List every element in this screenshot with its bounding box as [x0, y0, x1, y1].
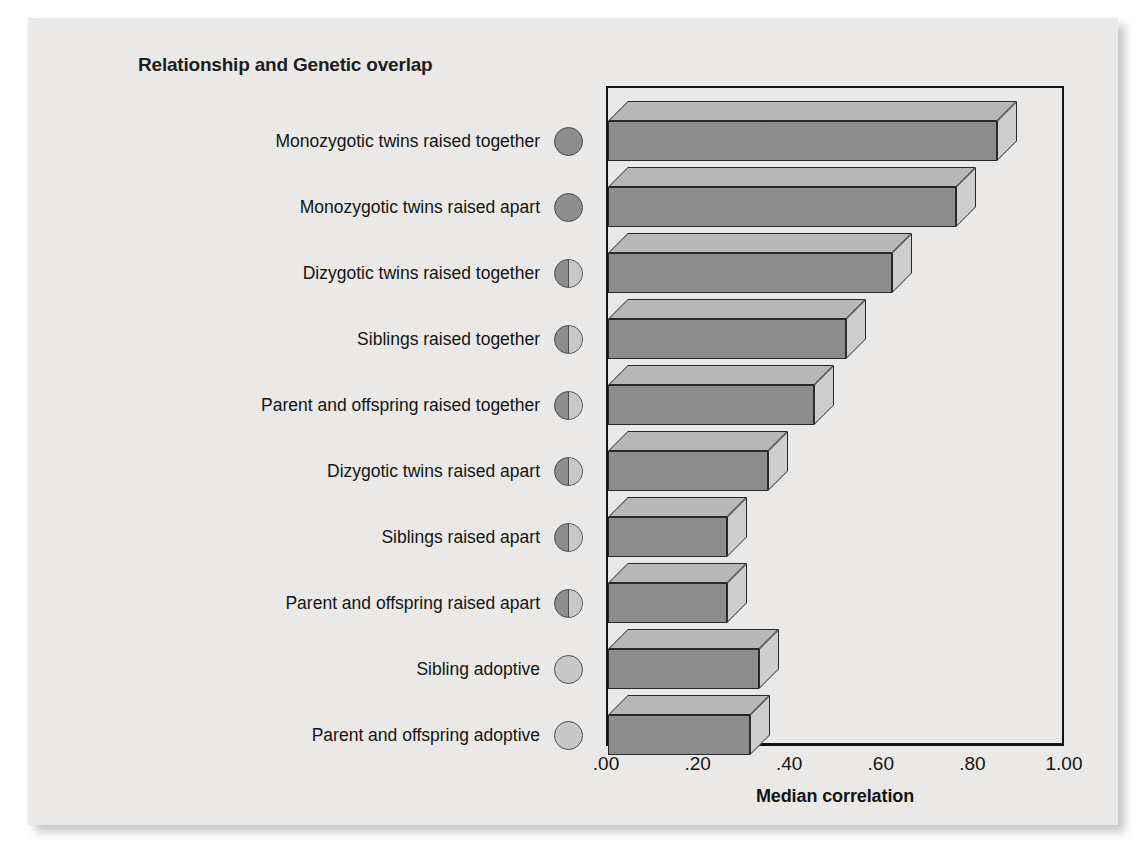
- bar-front-face: [608, 583, 727, 623]
- figure-card: Relationship and Genetic overlap Monozyg…: [28, 18, 1118, 825]
- x-axis-tick-labels: .00.20.40.60.801.00: [606, 753, 1064, 779]
- category-label: Dizygotic twins raised apart: [88, 461, 554, 482]
- bar-top-face: [608, 299, 866, 319]
- category-row: Siblings raised apart: [88, 504, 583, 570]
- bar-front-face: [608, 385, 814, 425]
- bar-front-face: [608, 715, 750, 755]
- bar-front-face: [608, 649, 759, 689]
- category-label: Parent and offspring raised together: [88, 395, 554, 416]
- category-row: Monozygotic twins raised together: [88, 108, 583, 174]
- category-label: Sibling adoptive: [88, 659, 554, 680]
- category-row: Parent and offspring adoptive: [88, 702, 583, 768]
- genetic-overlap-full-circle-icon: [554, 127, 583, 156]
- x-axis-tick-label: .20: [684, 753, 710, 775]
- category-label: Dizygotic twins raised together: [88, 263, 554, 284]
- bar-top-face: [608, 101, 1017, 121]
- category-label: Monozygotic twins raised together: [88, 131, 554, 152]
- genetic-overlap-empty-circle-icon: [554, 721, 583, 750]
- genetic-overlap-half-circle-icon: [554, 523, 583, 552]
- category-label: Parent and offspring raised apart: [88, 593, 554, 614]
- bar: [608, 319, 846, 359]
- x-axis-tick-label: .60: [868, 753, 894, 775]
- bar-front-face: [608, 451, 768, 491]
- legend-title: Relationship and Genetic overlap: [138, 54, 433, 76]
- bar: [608, 583, 727, 623]
- x-axis-tick-label: 1.00: [1046, 753, 1083, 775]
- circle-light-half: [568, 458, 583, 485]
- bar-top-face: [608, 563, 747, 583]
- category-row: Parent and offspring raised apart: [88, 570, 583, 636]
- bar: [608, 253, 892, 293]
- category-label: Siblings raised together: [88, 329, 554, 350]
- genetic-overlap-empty-circle-icon: [554, 655, 583, 684]
- plot-area: [606, 86, 1064, 746]
- x-axis-tick-label: .80: [959, 753, 985, 775]
- plot-frame-top: [606, 86, 1064, 88]
- genetic-overlap-half-circle-icon: [554, 391, 583, 420]
- genetic-overlap-half-circle-icon: [554, 259, 583, 288]
- genetic-overlap-full-circle-icon: [554, 193, 583, 222]
- category-label-column: Monozygotic twins raised togetherMonozyg…: [88, 86, 583, 746]
- bar-front-face: [608, 253, 892, 293]
- bar: [608, 649, 759, 689]
- bar: [608, 187, 956, 227]
- circle-light-half: [568, 260, 583, 287]
- category-row: Sibling adoptive: [88, 636, 583, 702]
- bar: [608, 385, 814, 425]
- genetic-overlap-half-circle-icon: [554, 457, 583, 486]
- bar-top-face: [608, 365, 834, 385]
- genetic-overlap-half-circle-icon: [554, 589, 583, 618]
- bar-front-face: [608, 517, 727, 557]
- bar-front-face: [608, 187, 956, 227]
- x-axis-tick-label: .40: [776, 753, 802, 775]
- category-row: Siblings raised together: [88, 306, 583, 372]
- genetic-overlap-half-circle-icon: [554, 325, 583, 354]
- bar-top-face: [608, 167, 976, 187]
- bar-top-face: [608, 233, 912, 253]
- category-row: Parent and offspring raised together: [88, 372, 583, 438]
- plot-frame-right: [1062, 86, 1064, 746]
- circle-light-half: [568, 392, 583, 419]
- figure-stage: Relationship and Genetic overlap Monozyg…: [0, 0, 1148, 851]
- circle-light-half: [568, 590, 583, 617]
- bar: [608, 451, 768, 491]
- bar: [608, 715, 750, 755]
- category-label: Siblings raised apart: [88, 527, 554, 548]
- category-label: Parent and offspring adoptive: [88, 725, 554, 746]
- bar: [608, 121, 997, 161]
- bar: [608, 517, 727, 557]
- bar-top-face: [608, 695, 770, 715]
- bar-top-face: [608, 629, 779, 649]
- category-row: Dizygotic twins raised apart: [88, 438, 583, 504]
- category-row: Dizygotic twins raised together: [88, 240, 583, 306]
- circle-light-half: [568, 524, 583, 551]
- bar-top-face: [608, 497, 747, 517]
- bar-front-face: [608, 121, 997, 161]
- category-row: Monozygotic twins raised apart: [88, 174, 583, 240]
- category-label: Monozygotic twins raised apart: [88, 197, 554, 218]
- bar-front-face: [608, 319, 846, 359]
- circle-light-half: [568, 326, 583, 353]
- x-axis-tick-label: .00: [593, 753, 619, 775]
- bar-top-face: [608, 431, 788, 451]
- x-axis-title: Median correlation: [606, 786, 1064, 807]
